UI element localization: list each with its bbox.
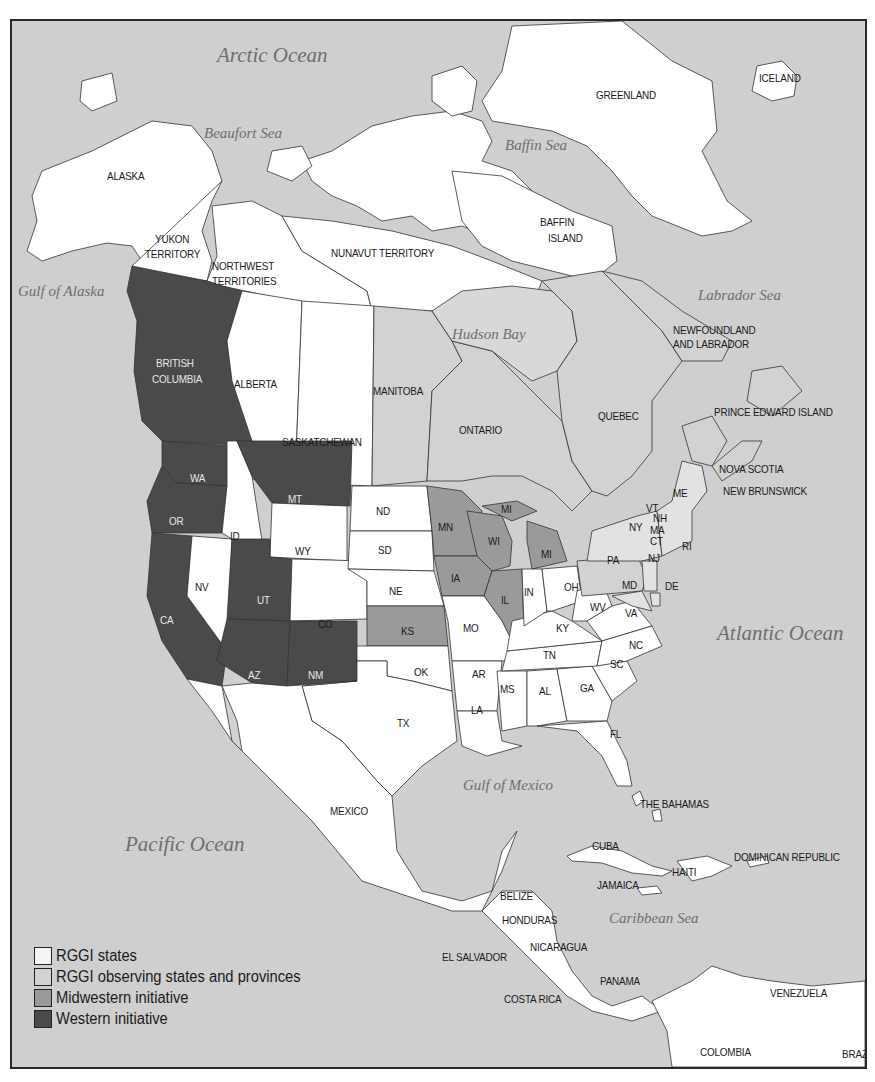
- label-state-nm: NM: [308, 669, 323, 682]
- label-state-ca: CA: [160, 614, 173, 627]
- label-yukon-1: YUKON: [155, 233, 189, 246]
- label-state-ia: IA: [451, 572, 460, 585]
- label-atlantic-ocean: Atlantic Ocean: [717, 621, 844, 646]
- label-state-al: AL: [539, 685, 551, 698]
- label-state-nh: NH: [653, 512, 667, 525]
- label-bc-2: COLUMBIA: [152, 373, 202, 386]
- label-state-nj: NJ: [648, 552, 660, 565]
- label-state-in: IN: [524, 586, 534, 599]
- legend-swatch-observing: [34, 968, 52, 986]
- legend-swatch-western: [34, 1010, 52, 1028]
- label-newfoundland-1: NEWFOUNDLAND: [673, 324, 756, 337]
- label-state-sd: SD: [378, 544, 391, 557]
- label-state-co: CO: [318, 618, 332, 631]
- label-state-mo: MO: [463, 622, 479, 635]
- label-baffin-sea: Baffin Sea: [505, 137, 567, 154]
- label-pacific-ocean: Pacific Ocean: [125, 832, 245, 857]
- label-state-fl: FL: [610, 728, 621, 741]
- legend-label-midwestern: Midwestern initiative: [56, 989, 189, 1007]
- legend-label-observing: RGGI observing states and provinces: [56, 968, 301, 986]
- label-el-salvador: EL SALVADOR: [442, 951, 507, 964]
- jamaica-shape: [637, 886, 662, 895]
- label-state-az: AZ: [248, 669, 260, 682]
- label-new-brunswick: NEW BRUNSWICK: [723, 485, 807, 498]
- label-state-mt: MT: [288, 493, 302, 506]
- label-state-de: DE: [665, 580, 678, 593]
- label-state-ga: GA: [580, 682, 594, 695]
- label-state-wi: WI: [488, 535, 500, 548]
- label-colombia: COLOMBIA: [700, 1046, 751, 1059]
- label-bahamas: THE BAHAMAS: [640, 798, 709, 811]
- label-yukon-2: TERRITORY: [145, 248, 200, 261]
- label-dominican: DOMINICAN REPUBLIC: [734, 851, 840, 864]
- label-state-ny: NY: [629, 521, 642, 534]
- legend-label-rggi: RGGI states: [56, 947, 137, 965]
- label-panama: PANAMA: [600, 975, 640, 988]
- label-state-va: VA: [625, 607, 637, 620]
- legend-item-western: Western initiative: [34, 1008, 322, 1029]
- label-saskatchewan: SASKATCHEWAN: [282, 436, 362, 449]
- label-nunavut: NUNAVUT TERRITORY: [331, 247, 434, 260]
- label-hudson-bay: Hudson Bay: [452, 326, 526, 343]
- label-nicaragua: NICARAGUA: [530, 941, 587, 954]
- label-beaufort-sea: Beaufort Sea: [204, 125, 282, 142]
- label-state-wy: WY: [295, 545, 311, 558]
- label-costa-rica: COSTA RICA: [504, 993, 561, 1006]
- label-state-tn: TN: [543, 649, 556, 662]
- label-state-pa: PA: [607, 554, 619, 567]
- legend-item-midwestern: Midwestern initiative: [34, 987, 322, 1008]
- label-state-md: MD: [622, 579, 637, 592]
- label-state-oh: OH: [564, 581, 578, 594]
- label-state-ut: UT: [257, 594, 270, 607]
- label-state-ne: NE: [389, 585, 402, 598]
- label-state-la: LA: [471, 704, 483, 717]
- label-caribbean-sea: Caribbean Sea: [609, 910, 699, 927]
- label-arctic-ocean: Arctic Ocean: [217, 43, 328, 68]
- label-state-ks: KS: [401, 625, 414, 638]
- label-pei: PRINCE EDWARD ISLAND: [714, 406, 833, 419]
- label-state-wv: WV: [590, 601, 606, 614]
- map-frame: Arctic Ocean Beaufort Sea Baffin Sea Gul…: [10, 19, 867, 1069]
- label-state-or: OR: [169, 515, 183, 528]
- label-jamaica: JAMAICA: [597, 879, 639, 892]
- legend-item-rggi: RGGI states: [34, 945, 322, 966]
- label-state-sc: SC: [610, 658, 623, 671]
- label-nwt-2: TERRITORIES: [212, 275, 276, 288]
- label-greenland: GREENLAND: [596, 89, 656, 102]
- legend-item-observing: RGGI observing states and provinces: [34, 966, 322, 987]
- label-state-id: ID: [230, 530, 240, 543]
- label-brazil: BRAZIL: [842, 1048, 867, 1061]
- label-state-ma: MA: [650, 524, 664, 537]
- label-state-nd: ND: [376, 505, 390, 518]
- label-cuba: CUBA: [592, 840, 619, 853]
- label-state-mi: MI: [541, 548, 552, 561]
- label-newfoundland-2: AND LABRADOR: [673, 338, 749, 351]
- label-state-mn: MN: [438, 521, 453, 534]
- label-belize: BELIZE: [500, 890, 533, 903]
- legend-swatch-rggi: [34, 947, 52, 965]
- map-legend: RGGI states RGGI observing states and pr…: [34, 945, 322, 1029]
- label-labrador-sea: Labrador Sea: [698, 287, 781, 304]
- nd-shape: [350, 486, 432, 531]
- label-state-wa: WA: [190, 472, 205, 485]
- label-venezuela: VENEZUELA: [770, 987, 827, 1000]
- label-mexico: MEXICO: [330, 805, 368, 818]
- label-state-il: IL: [501, 594, 509, 607]
- label-bc-1: BRITISH: [156, 357, 194, 370]
- label-state-mi-up: MI: [501, 503, 512, 516]
- label-state-ms: MS: [500, 683, 514, 696]
- de-shape: [650, 593, 660, 606]
- label-state-nc: NC: [629, 639, 643, 652]
- label-ontario: ONTARIO: [459, 424, 502, 437]
- label-alberta: ALBERTA: [234, 378, 277, 391]
- label-state-me: ME: [673, 487, 687, 500]
- ms-shape: [497, 671, 527, 731]
- label-gulf-of-alaska: Gulf of Alaska: [18, 283, 104, 300]
- label-state-tx: TX: [397, 717, 409, 730]
- label-haiti: HAITI: [672, 866, 696, 879]
- legend-label-western: Western initiative: [56, 1010, 168, 1028]
- label-gulf-of-mexico: Gulf of Mexico: [463, 777, 553, 794]
- label-state-ky: KY: [556, 622, 569, 635]
- label-nova-scotia: NOVA SCOTIA: [719, 463, 783, 476]
- label-alaska: ALASKA: [107, 170, 144, 183]
